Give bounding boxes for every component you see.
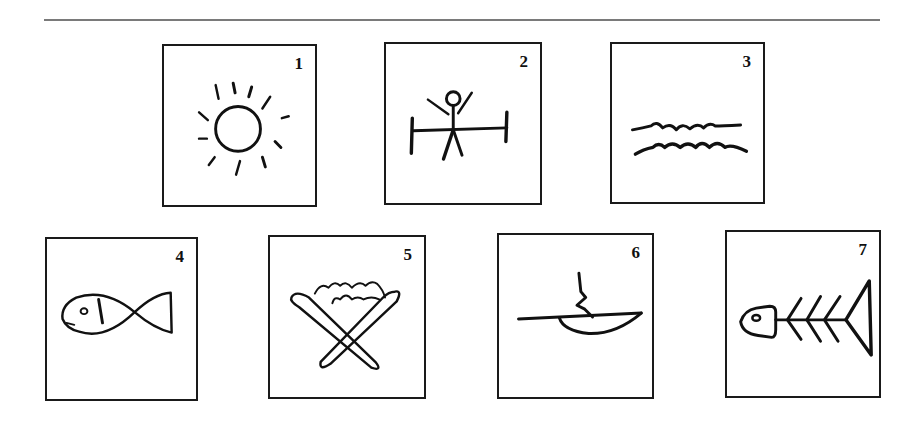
stick-figure-on-bar-icon xyxy=(386,44,540,203)
card-1: 1 xyxy=(162,44,317,207)
fish-skeleton-icon xyxy=(727,232,879,396)
card-2: 2 xyxy=(384,42,542,205)
card-3: 3 xyxy=(610,42,765,204)
card-5: 5 xyxy=(268,235,426,399)
fish-icon xyxy=(47,239,196,399)
card-6: 6 xyxy=(497,233,654,399)
top-divider-rule xyxy=(44,19,880,21)
water-waves-icon xyxy=(612,44,763,202)
cooking-pan-with-steam-icon xyxy=(499,235,652,397)
crossed-sticks-with-flames-icon xyxy=(270,237,424,397)
card-4: 4 xyxy=(45,237,198,401)
sun-icon xyxy=(164,46,315,205)
card-7: 7 xyxy=(725,230,881,398)
